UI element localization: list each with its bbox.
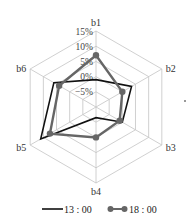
legend-label: 13 : 00 bbox=[64, 204, 92, 215]
axis-spoke bbox=[96, 69, 162, 107]
axis-label-b5: b5 bbox=[16, 142, 26, 153]
data-point-marker bbox=[119, 89, 125, 95]
ring-tick-label: −5% bbox=[75, 87, 93, 97]
axis-label-b4: b4 bbox=[91, 186, 101, 197]
stray-mark bbox=[184, 100, 186, 102]
legend-label: 18 : 00 bbox=[129, 204, 157, 215]
axis-spoke bbox=[96, 107, 162, 145]
legend-item-18-00: 18 : 00 bbox=[107, 202, 157, 216]
ring-tick-label: 10% bbox=[76, 42, 94, 52]
axis-label-b6: b6 bbox=[16, 63, 26, 74]
axis-label-b1: b1 bbox=[91, 17, 101, 28]
ring-tick-label: 15% bbox=[76, 27, 94, 37]
ring-tick-labels: 15%10%5%0%−5% bbox=[75, 27, 93, 98]
legend-item-13-00: 13 : 00 bbox=[42, 202, 92, 216]
data-point-marker bbox=[116, 117, 122, 123]
data-point-marker bbox=[56, 83, 62, 89]
data-point-marker bbox=[47, 130, 53, 136]
axis-label-b2: b2 bbox=[166, 63, 176, 74]
data-point-marker bbox=[93, 134, 99, 140]
radar-chart: 15%10%5%0%−5% b1b2b3b4b5b6 bbox=[0, 0, 192, 222]
axis-label-b3: b3 bbox=[166, 142, 176, 153]
gray-dotted-line-swatch-icon bbox=[107, 202, 128, 216]
data-point-marker bbox=[93, 52, 99, 58]
black-line-swatch-icon bbox=[42, 202, 63, 216]
legend: 13 : 00 18 : 00 bbox=[0, 202, 192, 216]
